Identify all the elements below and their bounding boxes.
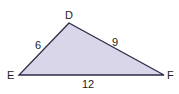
side-label-de: 6 — [35, 39, 41, 51]
vertex-label-f: F — [167, 69, 174, 81]
side-label-ef: 12 — [82, 78, 94, 90]
triangle-diagram: D E F 6 9 12 — [0, 0, 179, 94]
vertex-label-d: D — [65, 9, 73, 21]
side-label-df: 9 — [112, 36, 118, 48]
vertex-label-e: E — [7, 69, 14, 81]
